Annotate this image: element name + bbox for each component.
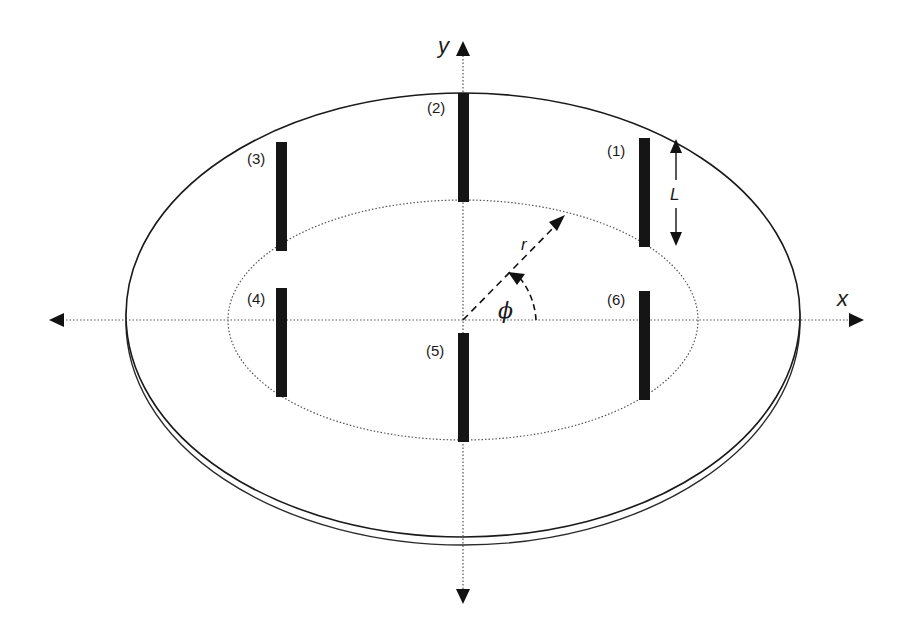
element-label-5: (5) <box>426 342 444 359</box>
angle-label: ϕ <box>498 298 513 323</box>
x-axis-label: x <box>836 286 849 311</box>
element-bar-5 <box>458 333 469 442</box>
disk-array-diagram: x y (1) (2) (3) (4) (5) (6) L r ϕ <box>0 0 905 638</box>
element-label-4: (4) <box>247 290 265 307</box>
element-bar-2 <box>458 93 469 202</box>
length-label: L <box>670 185 679 204</box>
element-bar-4 <box>276 288 287 397</box>
element-label-3: (3) <box>247 150 265 167</box>
element-bar-6 <box>639 291 650 400</box>
element-label-1: (1) <box>607 142 625 159</box>
element-label-6: (6) <box>607 291 625 308</box>
x-axis-left-arrow-icon <box>49 313 64 327</box>
y-axis-up-arrow-icon <box>456 41 470 56</box>
x-axis-right-arrow-icon <box>849 313 864 327</box>
y-axis-down-arrow-icon <box>456 589 470 604</box>
element-bar-1 <box>639 138 650 247</box>
y-axis-label: y <box>436 33 451 58</box>
element-bar-3 <box>276 142 287 251</box>
element-label-2: (2) <box>427 99 445 116</box>
